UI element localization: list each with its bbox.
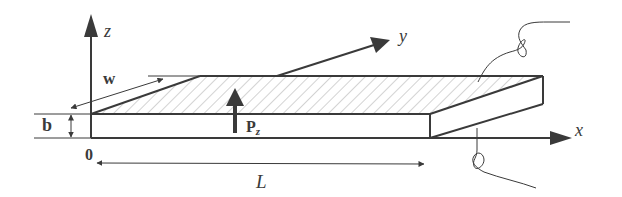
z-axis-arrowhead-icon: [84, 14, 98, 37]
plate-top-surface: [91, 76, 543, 114]
load-label-main: P: [246, 118, 256, 135]
load-label: Pz: [246, 119, 260, 137]
x-axis-label: x: [575, 121, 583, 139]
y-axis-label: y: [399, 27, 407, 45]
diagram-graphics: [0, 0, 622, 197]
thickness-label: b: [42, 116, 52, 134]
x-axis-arrowhead-icon: [550, 131, 572, 145]
cantilever-plate-diagram: z y x 0 w b L Pz: [0, 0, 622, 197]
load-label-sub: z: [256, 125, 260, 137]
z-axis-label: z: [104, 22, 111, 40]
length-label: L: [256, 172, 267, 191]
length-dimension: [97, 163, 424, 164]
wire-top: [478, 22, 570, 82]
width-label: w: [103, 70, 115, 87]
origin-label: 0: [85, 147, 93, 163]
y-axis-arrowhead-icon: [370, 37, 390, 53]
y-axis: [277, 45, 374, 76]
